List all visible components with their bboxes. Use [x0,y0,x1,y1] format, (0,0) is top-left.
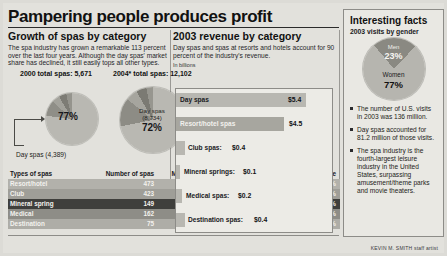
row-type: Mineral spring [8,199,90,209]
bottom-divider [8,235,339,236]
list-item: Day spas accounted for 81.2 million of t… [350,126,437,142]
revenue-intro: Day spas and spas at resorts and hotels … [173,44,335,59]
col-header-number-2000: Number of spas [90,170,158,179]
facts-list: The number of U.S. visits in 2003 was 13… [350,105,437,195]
bullet-square-icon [350,149,353,152]
bar-value-day-spas: $5.4 [288,96,301,103]
bar-row: Destination spas: $0.4 [176,209,332,233]
bar-value-medical-spas: $0.2 [238,192,251,199]
bar-label-resort-hotel-spas: Resort/hotel spas [180,120,235,127]
section-revenue-by-category: 2003 revenue by category Day spas and sp… [173,30,335,230]
list-item: The number of U.S. visits in 2003 was 13… [350,105,437,121]
bar-value-club-spas: $0.4 [232,144,245,151]
pie-slice-percent-women: 77% [363,79,425,90]
bar-row: Club spas: $0.4 [176,137,332,161]
bar-row: Medical spas: $0.2 [176,185,332,209]
row-num-2000: 473 [90,179,158,189]
pie-slice-label-men: Men [363,44,425,51]
pie-slice-label-women: Women [363,71,425,79]
bar-row: Resort/hotel spas $4.5 [176,113,332,137]
facts-panel-inner: Interesting facts 2003 visits by gender … [344,10,443,195]
row-num-2000: 162 [90,209,158,219]
revenue-units-label: In billions [173,62,335,68]
growth-heading: Growth of spas by category [8,30,169,42]
row-type: Resort/hotel [8,179,90,189]
section-interesting-facts: Interesting facts 2003 visits by gender … [343,9,444,237]
fact-text: The spa industry is the fourth-largest l… [357,147,430,194]
revenue-heading: 2003 revenue by category [173,30,335,42]
bar-value-resort-hotel-spas: $4.5 [289,120,302,127]
bar-destination-spas [176,213,185,227]
gender-pie-title: 2003 visits by gender [350,28,437,35]
row-type: Medical [8,209,90,219]
revenue-bar-chart: Day spas $5.4 Resort/hotel spas $4.5 Clu… [175,88,333,233]
bullet-square-icon [350,128,353,131]
bar-label-mineral-springs: Mineral springs: [184,168,235,175]
pie-chart-visits-by-gender: Men 23% Women 77% [363,38,425,100]
bar-medical-spas [176,189,182,203]
fact-text: The number of U.S. visits in 2003 was 13… [357,105,431,120]
bullet-square-icon [350,107,353,110]
row-type: Destination [8,219,90,229]
facts-heading: Interesting facts [350,15,437,26]
bar-value-destination-spas: $0.4 [254,216,267,223]
bar-row: Day spas $5.4 [176,89,332,113]
bar-label-medical-spas: Medical spas: [186,192,229,199]
bar-label-club-spas: Club spas: [188,144,222,151]
title-bar: Pampering people produces profit [8,7,338,27]
row-type: Club [8,189,90,199]
row-num-2000: 75 [90,219,158,229]
infographic-frame: Pampering people produces profit Growth … [3,3,444,253]
pie-slice-percent-men: 23% [363,51,425,61]
bar-label-day-spas: Day spas [180,96,209,103]
list-item: The spa industry is the fourth-largest l… [350,147,437,195]
bar-mineral-springs [176,165,180,179]
fact-text: Day spas accounted for 81.2 million of t… [357,126,434,141]
title-divider [8,27,339,28]
bar-value-mineral-springs: $0.1 [243,168,256,175]
row-num-2000: 423 [90,189,158,199]
bar-row: Mineral springs: $0.1 [176,161,332,185]
artist-credit: KEVIN M. SMITH staff artist [371,245,438,251]
page-title: Pampering people produces profit [8,7,338,26]
bar-club-spas [176,141,185,155]
infographic-page: Pampering people produces profit Growth … [0,0,447,256]
bar-label-destination-spas: Destination spas: [188,216,243,223]
col-header-types: Types of spas [8,170,90,179]
row-num-2000: 149 [90,199,158,209]
